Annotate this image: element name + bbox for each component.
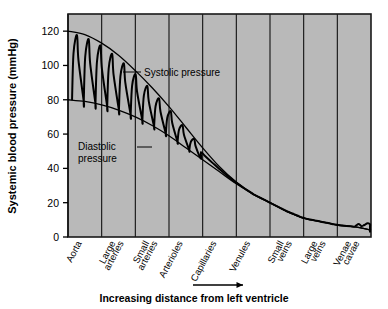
x-axis-category-label: Aorta bbox=[63, 238, 84, 264]
x-axis-category-label: Venules bbox=[227, 239, 253, 274]
y-tick-label: 100 bbox=[41, 59, 59, 71]
y-tick-label: 80 bbox=[47, 94, 59, 106]
x-axis-caption: Increasing distance from left ventricle bbox=[99, 292, 288, 304]
diastolic-annotation-line2: pressure bbox=[78, 153, 117, 164]
y-tick-label: 40 bbox=[47, 162, 59, 174]
systolic-annotation-label: Systolic pressure bbox=[144, 67, 221, 78]
y-tick-label: 60 bbox=[47, 128, 59, 140]
y-tick-label: 0 bbox=[53, 231, 59, 243]
y-tick-label: 120 bbox=[41, 25, 59, 37]
y-axis-title: Systemic blood pressure (mmHg) bbox=[6, 38, 18, 214]
x-axis-category-label: Arterioles bbox=[156, 239, 185, 280]
y-tick-label: 20 bbox=[47, 197, 59, 209]
y-axis-ticks: 020406080100120 bbox=[41, 25, 68, 243]
x-axis-category-label: Capillaries bbox=[188, 239, 219, 284]
x-axis-category-labels: AortaLargearteriesSmallarteriesArteriole… bbox=[63, 238, 361, 283]
plot-area-background bbox=[68, 14, 371, 237]
increasing-distance-arrow-icon bbox=[193, 282, 243, 288]
blood-pressure-figure: 020406080100120 Systemic blood pressure … bbox=[0, 0, 388, 309]
diastolic-annotation-line1: Diastolic bbox=[78, 141, 116, 152]
chart-svg: 020406080100120 Systemic blood pressure … bbox=[0, 0, 388, 309]
